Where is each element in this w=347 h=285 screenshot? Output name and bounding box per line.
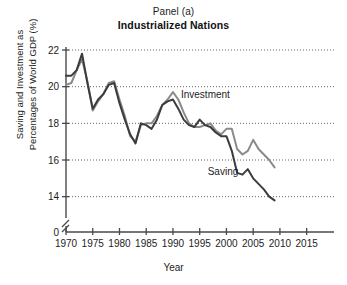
series-line-saving bbox=[66, 54, 275, 201]
x-tick-label: 1980 bbox=[108, 238, 131, 249]
tick-labels-group: 0141618202219701975198019851990199520002… bbox=[48, 45, 318, 249]
axes-group bbox=[62, 47, 334, 232]
x-tick-label: 1990 bbox=[162, 238, 185, 249]
y-tick-label: 22 bbox=[48, 45, 60, 56]
series-line-investment bbox=[66, 59, 275, 167]
annotation-saving: Saving bbox=[208, 166, 239, 177]
x-tick-label: 2010 bbox=[269, 238, 292, 249]
tick-marks-group bbox=[62, 50, 307, 235]
chart-figure: Panel (a) Industrialized Nations Saving … bbox=[0, 0, 347, 285]
data-series-group bbox=[66, 54, 275, 201]
y-tick-label: 14 bbox=[48, 191, 60, 202]
x-tick-label: 1970 bbox=[55, 238, 78, 249]
x-tick-label: 2005 bbox=[242, 238, 265, 249]
x-tick-label: 2000 bbox=[215, 238, 238, 249]
chart-plot-area: 0141618202219701975198019851990199520002… bbox=[0, 0, 347, 285]
y-tick-label: 18 bbox=[48, 118, 60, 129]
series-annotations-group: InvestmentSaving bbox=[181, 89, 238, 177]
x-axis-label: Year bbox=[0, 262, 347, 273]
x-tick-label: 1975 bbox=[82, 238, 105, 249]
x-tick-label: 2015 bbox=[296, 238, 319, 249]
x-tick-label: 1995 bbox=[189, 238, 212, 249]
x-tick-label: 1985 bbox=[135, 238, 158, 249]
y-tick-label: 20 bbox=[48, 81, 60, 92]
y-tick-label: 0 bbox=[53, 227, 59, 238]
y-tick-label: 16 bbox=[48, 155, 60, 166]
gridlines-group bbox=[66, 50, 334, 197]
annotation-investment: Investment bbox=[181, 89, 230, 100]
